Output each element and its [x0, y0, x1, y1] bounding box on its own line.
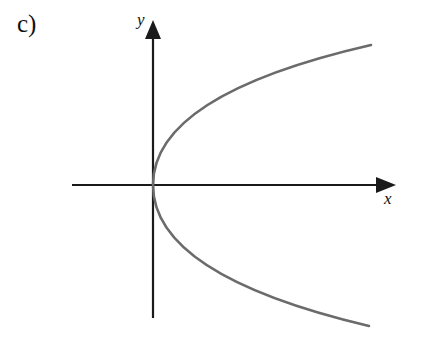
y-axis — [145, 20, 161, 318]
part-label: c) — [17, 10, 36, 38]
x-axis-label: x — [384, 189, 392, 209]
graph — [0, 0, 426, 348]
y-axis-label: y — [137, 10, 145, 30]
y-axis-arrow-icon — [145, 20, 161, 39]
x-axis — [72, 177, 396, 193]
figure: c) y x — [0, 0, 426, 348]
